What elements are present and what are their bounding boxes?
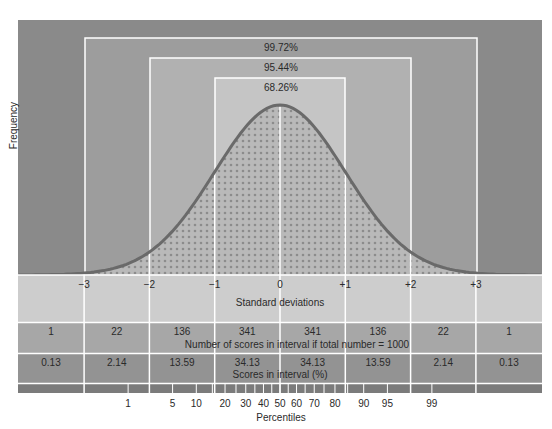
percent-value: 0.13 [499,357,518,368]
sd-tick-label: 0 [277,279,283,290]
sd-tick-label: +3 [470,279,481,290]
interval-label-99: 99.72% [264,42,298,53]
percentile-tick-label: 80 [329,398,340,409]
percentile-tick-label: 70 [309,398,320,409]
percentiles-title: Percentiles [256,412,305,423]
percentile-tick-label: 5 [170,398,176,409]
sd-tick-label: +1 [340,279,351,290]
sd-tick-label: +2 [405,279,416,290]
percentile-tick-label: 60 [291,398,302,409]
count-value: 1 [506,326,512,337]
percent-row-title: Scores in interval (%) [232,369,327,380]
count-value: 341 [239,326,256,337]
counts-row-title: Number of scores in interval if total nu… [185,339,409,350]
count-value: 22 [111,326,122,337]
percent-value: 34.13 [235,357,260,368]
percent-value: 13.59 [365,357,390,368]
percentile-tick-label: 99 [426,398,437,409]
percentile-tick-label: 95 [382,398,393,409]
count-value: 22 [438,326,449,337]
percent-value: 2.14 [434,357,453,368]
count-value: 341 [304,326,321,337]
sd-axis-title: Standard deviations [236,297,324,308]
interval-label-68: 68.26% [264,82,298,93]
count-value: 136 [174,326,191,337]
percentile-tick-label: 30 [240,398,251,409]
sd-tick-label: −2 [144,279,155,290]
percentile-tick-label: 10 [191,398,202,409]
interval-label-95: 95.44% [264,62,298,73]
percentile-tick-label: 40 [258,398,269,409]
percentile-tick-label: 20 [219,398,230,409]
count-value: 136 [370,326,387,337]
sd-tick-label: −1 [209,279,220,290]
percent-value: 0.13 [41,357,60,368]
percent-value: 34.13 [300,357,325,368]
percentile-tick-label: 90 [358,398,369,409]
percentile-tick-label: 50 [274,398,285,409]
y-axis-label: Frequency [8,101,19,151]
percent-value: 13.59 [170,357,195,368]
percentile-tick-label: 1 [125,398,131,409]
percent-value: 2.14 [107,357,126,368]
count-value: 1 [48,326,54,337]
sd-tick-label: −3 [78,279,89,290]
